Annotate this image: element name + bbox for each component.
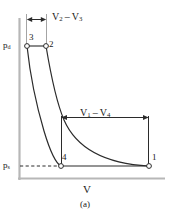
state-point-markers — [25, 44, 152, 169]
state-point-3-marker — [25, 44, 30, 49]
dimension-label-v1-v4: V1–V4 — [80, 108, 110, 119]
volume-axis-label: V — [83, 184, 91, 195]
ps-sub: s — [8, 164, 10, 170]
dim-v3-sub: 3 — [79, 15, 82, 22]
axis-group — [18, 18, 165, 180]
suction-pressure-label: ps — [3, 161, 10, 170]
state-point-2-label: 2 — [49, 40, 54, 49]
dim-v3-base: V — [72, 11, 79, 22]
cycle-process-lines — [20, 46, 149, 166]
pv-diagram-figure: V2–V3 V1–V4 pd ps 3 2 4 1 V (a) — [0, 0, 169, 216]
dim-dash-1: – — [63, 11, 72, 22]
state-point-4-label: 4 — [62, 153, 67, 162]
figure-caption: (a) — [80, 200, 90, 209]
dim-dash-2: – — [91, 107, 100, 118]
dimension-arrow-v1-v4 — [61, 115, 148, 164]
state-point-2-marker — [44, 44, 49, 49]
state-point-3-label: 3 — [29, 33, 34, 42]
state-point-1-marker — [147, 164, 152, 169]
pd-sub: d — [8, 44, 11, 50]
dim-v4-sub: 4 — [107, 111, 110, 118]
dimension-arrow-v2-v3 — [27, 17, 46, 22]
state-point-4-marker — [59, 164, 64, 169]
dim-v4-base: V — [100, 107, 107, 118]
dimension-label-v2-v3: V2–V3 — [52, 12, 82, 23]
state-point-1-label: 1 — [152, 153, 157, 162]
discharge-pressure-label: pd — [3, 41, 11, 50]
expansion-curve-3-4 — [27, 46, 61, 166]
